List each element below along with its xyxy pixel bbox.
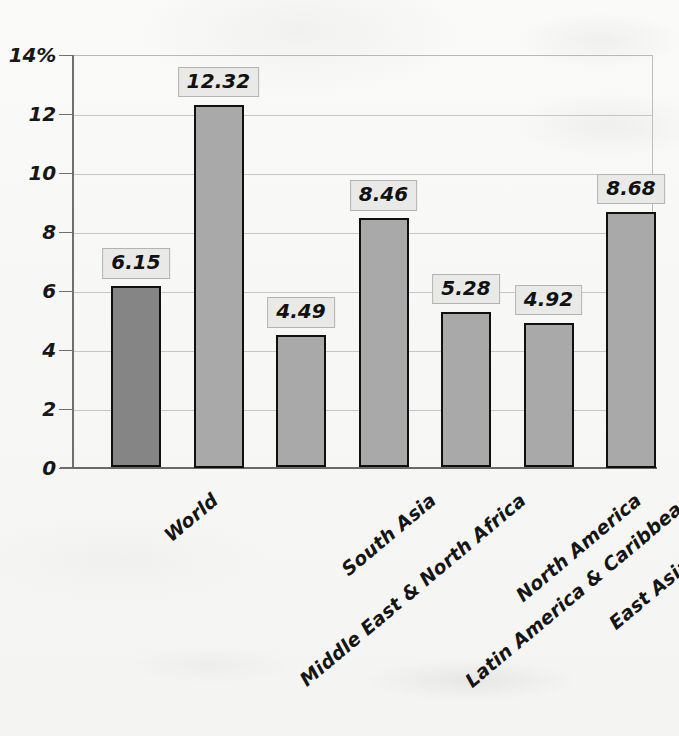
y-tick-mark	[59, 114, 72, 115]
bar-value-label: 8.46	[350, 180, 418, 210]
y-axis-line	[72, 55, 74, 469]
gridline	[74, 115, 652, 116]
y-tick-label: 6	[42, 279, 56, 303]
gridline	[74, 174, 652, 175]
y-tick-label: 0	[42, 456, 56, 480]
y-tick-mark	[59, 468, 72, 469]
y-tick-mark	[59, 350, 72, 351]
bar[interactable]	[359, 218, 409, 467]
bar-value-label: 12.32	[178, 67, 260, 97]
bar[interactable]	[524, 323, 574, 468]
bar-value-label: 4.49	[267, 297, 335, 327]
x-axis-category-label: World	[160, 489, 222, 546]
y-tick-mark	[59, 291, 72, 292]
bar[interactable]	[194, 105, 244, 468]
y-tick-label: 14%	[9, 43, 56, 67]
y-tick-label: 4	[42, 338, 56, 362]
y-tick-mark	[59, 409, 72, 410]
y-tick-label: 8	[42, 220, 56, 244]
bar[interactable]	[606, 212, 656, 468]
y-tick-mark	[59, 55, 72, 56]
bar[interactable]	[111, 286, 161, 467]
y-tick-label: 10	[29, 161, 56, 185]
y-tick-label: 12	[29, 102, 56, 126]
y-tick-mark	[59, 232, 72, 233]
y-tick-label: 2	[42, 397, 56, 421]
bar-value-label: 5.28	[432, 274, 500, 304]
bar-chart: 02468101214% 6.1512.324.498.465.284.928.…	[0, 0, 679, 736]
y-tick-mark	[59, 173, 72, 174]
bar[interactable]	[276, 335, 326, 467]
bar[interactable]	[441, 312, 491, 468]
bar-value-label: 8.68	[597, 174, 665, 204]
bar-value-label: 4.92	[515, 285, 583, 315]
bar-value-label: 6.15	[102, 248, 170, 278]
